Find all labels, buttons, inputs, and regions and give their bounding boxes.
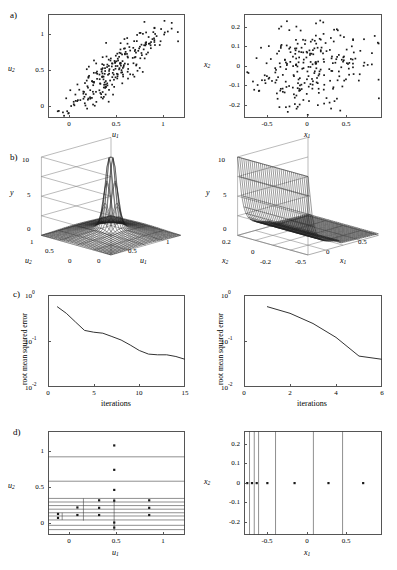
xtick-a-left-1: 1 bbox=[161, 120, 165, 128]
ytick-b-right-m02: -0.2 bbox=[260, 258, 271, 266]
axis-label-a-right-y: x2 bbox=[204, 60, 210, 69]
xtick-c-right-4: 4 bbox=[334, 389, 338, 397]
ytick-a-right-02: 0.2 bbox=[216, 23, 240, 31]
ytick-c-left-1e0: 100 bbox=[25, 289, 35, 300]
ytick-a-left-1: 1 bbox=[22, 30, 44, 38]
xtick-c-left-10: 10 bbox=[136, 389, 143, 397]
surface3d-b-left bbox=[24, 148, 198, 260]
ytick-c-right-1e0: 100 bbox=[221, 289, 231, 300]
xtick-c-right-2: 2 bbox=[288, 389, 292, 397]
panel-c-left: c) 100 10-1 10-2 0 5 10 15 iterations ro… bbox=[0, 273, 198, 415]
scatter-a-right bbox=[244, 14, 382, 118]
panel-b-right: 10 5 0 y 0.2 0 -0.2 x2 -0.5 0 0.5 x1 bbox=[198, 142, 397, 273]
ytick-d-right-m02: -0.2 bbox=[216, 518, 240, 526]
axis-label-b-left-x: u1 bbox=[140, 256, 147, 265]
xtick-d-right-m05: -0.5 bbox=[261, 537, 272, 545]
panel-c-right: 100 10-1 10-2 0 2 4 6 iterations root me… bbox=[198, 273, 397, 415]
xtick-c-left-0: 0 bbox=[46, 389, 50, 397]
ytick-a-right-0: 0 bbox=[216, 62, 240, 70]
xtick-b-left-1: 1 bbox=[166, 238, 170, 246]
panel-b-left: b) 10 5 0 y 1 0.5 0 u2 0 0.5 1 u1 bbox=[0, 142, 198, 273]
ytick-d-left-0: 0 bbox=[22, 519, 44, 527]
axis-label-c-right-x: iterations bbox=[297, 399, 327, 408]
ytick-a-right-01: 0.1 bbox=[216, 42, 240, 50]
xtick-b-left-05: 0.5 bbox=[128, 247, 137, 255]
line-c-left bbox=[48, 295, 185, 387]
panel-a-right: 0.2 0.1 0 -0.1 -0.2 -0.5 0 0.5 x1 x2 bbox=[198, 0, 397, 142]
axis-label-a-left-y: u2 bbox=[8, 64, 15, 73]
ztick-b-left-0: 0 bbox=[27, 225, 31, 233]
xtick-a-left-0: 0 bbox=[67, 120, 71, 128]
surface3d-b-right bbox=[220, 148, 396, 260]
ytick-a-left-05: 0.5 bbox=[22, 66, 44, 74]
panel-d-left: d) 0 0.5 1 0 0.5 1 u1 u2 bbox=[0, 415, 198, 570]
xtick-b-right-0: 0 bbox=[326, 248, 330, 256]
ytick-d-left-05: 0.5 bbox=[22, 483, 44, 491]
ytick-b-left-1: 1 bbox=[30, 238, 34, 246]
axis-label-b-left-z: y bbox=[10, 188, 14, 197]
xtick-b-left-0: 0 bbox=[97, 257, 101, 265]
ytick-a-left-0: 0 bbox=[22, 102, 44, 110]
ztick-b-right-10: 10 bbox=[218, 156, 225, 164]
partition-d-left bbox=[48, 431, 185, 535]
axis-label-d-left-x: u1 bbox=[112, 548, 119, 557]
xtick-b-right-05: 0.5 bbox=[358, 238, 367, 246]
axis-label-d-right-x: x1 bbox=[304, 548, 310, 557]
ztick-b-right-5: 5 bbox=[223, 191, 227, 199]
axis-label-b-right-z: y bbox=[206, 188, 210, 197]
ytick-a-right-m01: -0.1 bbox=[216, 81, 240, 89]
xtick-c-left-5: 5 bbox=[92, 389, 96, 397]
partition-d-right bbox=[244, 431, 382, 535]
panel-label-b: b) bbox=[10, 152, 18, 162]
xtick-a-left-05: 0.5 bbox=[112, 120, 121, 128]
xtick-b-right-m05: -0.5 bbox=[295, 258, 306, 266]
ytick-b-left-05: 0.5 bbox=[45, 247, 54, 255]
line-c-right bbox=[244, 295, 382, 387]
axis-label-b-right-x: x1 bbox=[340, 256, 346, 265]
ytick-d-right-m01: -0.1 bbox=[216, 498, 240, 506]
xtick-d-left-1: 1 bbox=[161, 537, 165, 545]
ytick-d-right-01: 0.1 bbox=[216, 459, 240, 467]
ztick-b-left-10: 10 bbox=[22, 156, 29, 164]
axis-label-a-left-x: u1 bbox=[112, 130, 119, 139]
ytick-d-left-1: 1 bbox=[22, 447, 44, 455]
xtick-d-right-05: 0.5 bbox=[342, 537, 351, 545]
xtick-d-left-05: 0.5 bbox=[112, 537, 121, 545]
axis-label-b-left-y: u2 bbox=[25, 256, 32, 265]
axis-label-c-left-y: root mean squared error bbox=[20, 313, 29, 385]
xtick-d-left-0: 0 bbox=[67, 537, 71, 545]
ytick-d-right-02: 0.2 bbox=[216, 440, 240, 448]
panel-label-c: c) bbox=[13, 289, 20, 299]
ytick-b-right-02: 0.2 bbox=[222, 238, 231, 246]
axis-label-c-right-y: root mean squared error bbox=[216, 313, 225, 385]
ztick-b-left-5: 5 bbox=[27, 191, 31, 199]
axis-label-b-right-y: x2 bbox=[222, 256, 228, 265]
axis-label-d-right-y: x2 bbox=[204, 477, 210, 486]
panel-a-left: a) 0 0.5 1 0 0.5 1 u1 u2 bbox=[0, 0, 198, 142]
panel-d-right: 0.2 0.1 0 -0.1 -0.2 -0.5 0 0.5 x1 x2 bbox=[198, 415, 397, 570]
xtick-a-right-m05: -0.5 bbox=[261, 120, 272, 128]
panel-label-d: d) bbox=[13, 427, 21, 437]
ztick-b-right-0: 0 bbox=[223, 225, 227, 233]
ytick-d-right-0: 0 bbox=[216, 479, 240, 487]
xtick-d-right-0: 0 bbox=[305, 537, 309, 545]
panel-label-a: a) bbox=[10, 10, 17, 20]
xtick-c-left-15: 15 bbox=[182, 389, 189, 397]
xtick-c-right-0: 0 bbox=[242, 389, 246, 397]
ytick-b-right-0: 0 bbox=[251, 248, 255, 256]
ytick-b-left-0: 0 bbox=[68, 257, 72, 265]
scatter-a-left bbox=[48, 14, 185, 118]
xtick-a-right-0: 0 bbox=[305, 120, 309, 128]
figure-root: a) 0 0.5 1 0 0.5 1 u1 u2 0.2 0.1 0 -0.1 … bbox=[0, 0, 397, 570]
axis-label-c-left-x: iterations bbox=[101, 399, 131, 408]
xtick-c-right-6: 6 bbox=[380, 389, 384, 397]
ytick-a-right-m02: -0.2 bbox=[216, 101, 240, 109]
axis-label-d-left-y: u2 bbox=[8, 481, 15, 490]
xtick-a-right-05: 0.5 bbox=[342, 120, 351, 128]
